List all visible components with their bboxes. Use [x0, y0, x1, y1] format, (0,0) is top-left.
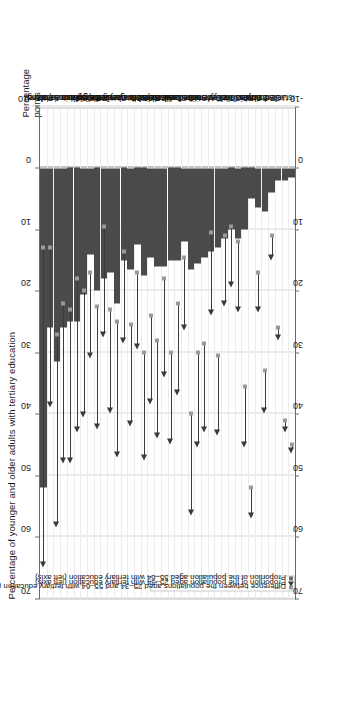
arrow-head-25-34: [255, 306, 261, 312]
figure: Percentage of younger and older adults w…: [0, 0, 364, 727]
arrow-head-25-34: [53, 521, 59, 527]
marker-55-64: [149, 313, 153, 317]
row-separator: [275, 108, 276, 598]
marker-55-64: [202, 341, 206, 345]
tick--10: [35, 106, 39, 107]
arrow-line: [84, 291, 85, 412]
tick-label-0: 0: [298, 155, 303, 165]
chart-legend: Difference between the populations aged …: [150, 575, 295, 591]
tick-label-10: 10: [21, 216, 31, 226]
tick-label-20: 20: [21, 278, 31, 288]
arrow-head-25-34: [127, 420, 133, 426]
marker-55-64: [115, 319, 119, 323]
arrow-head-25-34: [134, 343, 140, 349]
chart-title: Percentage of younger and older adults w…: [6, 331, 17, 599]
bar-hungary: [134, 168, 141, 245]
arrow-head-25-34: [208, 309, 214, 315]
bar-sweden: [154, 168, 161, 266]
arrow-head-25-34: [80, 411, 86, 417]
tick-label--10: -10: [290, 93, 303, 103]
arrow-line: [110, 309, 111, 409]
arrow-line: [63, 303, 64, 458]
marker-55-64: [189, 412, 193, 416]
arrow-line: [218, 355, 219, 430]
marker-55-64: [216, 353, 220, 357]
tick-label-30: 30: [21, 339, 31, 349]
arrow-head-25-34: [241, 441, 247, 447]
arrow-line: [231, 226, 232, 283]
marker-55-64: [108, 307, 112, 311]
marker-55-64: [182, 255, 186, 259]
bar-denmark: [215, 168, 222, 248]
tick-label-10: 10: [293, 216, 303, 226]
bar-chile: [235, 168, 242, 239]
bar-finland: [241, 168, 248, 230]
arrow-head-25-34: [167, 438, 173, 444]
arrow-line: [124, 251, 125, 338]
marker-55-64: [48, 245, 52, 249]
tick-30: [35, 352, 39, 353]
marker-55-64: [249, 485, 253, 489]
tick-60: [295, 537, 299, 538]
arrow-head-25-34: [288, 447, 294, 453]
tick-label-60: 60: [21, 524, 31, 534]
tick-label-40: 40: [293, 401, 303, 411]
marker-55-64: [129, 322, 133, 326]
marker-55-64: [209, 230, 213, 234]
row-separator: [288, 108, 289, 598]
tick-50: [35, 475, 39, 476]
arrow-line: [258, 272, 259, 307]
chart-page: Percentage of younger and older adults w…: [0, 0, 364, 727]
bar-norway: [141, 168, 148, 276]
arrow-line: [97, 306, 98, 424]
gridline--10: [40, 105, 295, 106]
arrow-line: [265, 370, 266, 408]
arrow-head-25-34: [87, 352, 93, 358]
arrow-head-25-34: [40, 561, 46, 567]
arrow-head-25-34: [214, 429, 220, 435]
arrow-head-25-34: [67, 457, 73, 463]
arrow-head-25-34: [154, 432, 160, 438]
arrow-head-25-34: [161, 371, 167, 377]
tick-label-0: 0: [26, 155, 31, 165]
marker-55-64: [61, 301, 65, 305]
legend-label: Proportion of the population aged 55–64 …: [35, 572, 286, 581]
bar-united-states: [282, 168, 289, 180]
arrow-head-25-34: [141, 454, 147, 460]
arrow-head-25-34: [261, 408, 267, 414]
legend-item-2: Proportion of the population aged 55–64 …: [151, 570, 294, 581]
marker-55-64: [122, 249, 126, 253]
marker-55-64: [102, 224, 106, 228]
bar-netherlands: [127, 168, 134, 269]
arrow-line: [191, 414, 192, 510]
arrow-line: [90, 272, 91, 353]
tick--10: [295, 106, 299, 107]
value-axis-top: [39, 107, 40, 599]
arrow-head-25-34: [275, 334, 281, 340]
bar-iceland: [174, 168, 181, 260]
arrow-line: [144, 352, 145, 455]
arrow-head-25-34: [194, 441, 200, 447]
arrow-line: [77, 278, 78, 427]
bar-united-kingdom: [114, 168, 121, 303]
marker-55-64: [223, 233, 227, 237]
arrow-line: [70, 309, 71, 458]
marker-55-64: [155, 338, 159, 342]
marker-55-64: [75, 276, 79, 280]
arrow-head-25-34: [228, 281, 234, 287]
arrow-line: [57, 334, 58, 523]
arrow-line: [225, 235, 226, 301]
bar-turkey: [228, 168, 235, 230]
bar-czech-republic: [121, 168, 128, 260]
tick-70: [35, 598, 39, 599]
arrow-head-25-34: [60, 457, 66, 463]
tick-label-70: 70: [293, 585, 303, 595]
bar-brazil: [268, 168, 275, 193]
arrow-head-25-34: [248, 512, 254, 518]
marker-55-64: [196, 350, 200, 354]
bar-israel: [288, 168, 295, 177]
arrow-head-25-34: [107, 408, 113, 414]
arrow-line: [131, 324, 132, 420]
tick-40: [35, 414, 39, 415]
arrow-line: [157, 340, 158, 433]
